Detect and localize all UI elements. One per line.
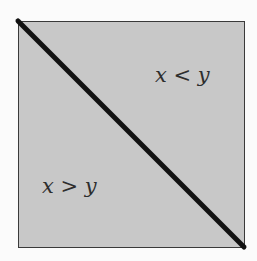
region-label-x-less-than-y: x < y bbox=[155, 65, 210, 86]
region-label-x-greater-than-y: x > y bbox=[42, 176, 97, 197]
diagonal-line bbox=[0, 0, 257, 261]
